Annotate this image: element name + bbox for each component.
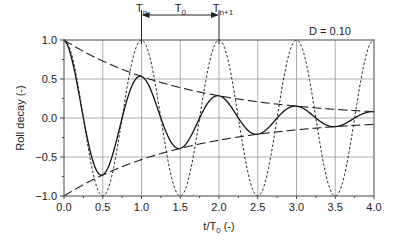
x-tick-label: 0.0: [56, 201, 71, 213]
x-tick-label: 1.0: [134, 201, 149, 213]
annotations: Tn T0 Tn+1 D = 0.10: [136, 2, 351, 44]
x-axis-label: t/T0 (-): [203, 220, 234, 235]
y-tick-label: 0.5: [42, 73, 57, 85]
y-tick-label: 0.0: [42, 112, 57, 124]
x-tick-label: 4.0: [366, 201, 381, 213]
damping-label: D = 0.10: [309, 25, 351, 37]
grid: [64, 40, 374, 196]
x-tick-label: 3.5: [328, 201, 343, 213]
ticks: 0.00.51.01.52.02.53.03.54.01.00.50.0−0.5…: [35, 34, 381, 213]
x-tick-label: 1.5: [173, 201, 188, 213]
y-axis-label: Roll decay (-): [14, 85, 26, 150]
y-tick-label: 1.0: [42, 34, 57, 46]
x-tick-label: 3.0: [289, 201, 304, 213]
x-tick-label: 0.5: [95, 201, 110, 213]
x-tick-label: 2.5: [250, 201, 265, 213]
x-tick-label: 2.0: [211, 201, 226, 213]
y-tick-label: −0.5: [35, 151, 57, 163]
y-tick-label: −1.0: [35, 190, 57, 202]
roll-decay-chart: 0.00.51.01.52.02.53.03.54.01.00.50.0−0.5…: [0, 0, 396, 243]
